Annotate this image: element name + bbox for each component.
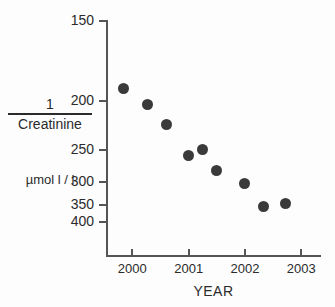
y-axis-tick-label: 150 (50, 13, 94, 27)
y-axis-tick-label: 250 (50, 142, 94, 156)
y-axis-tick (99, 204, 107, 206)
y-axis-tick (99, 100, 107, 102)
x-axis-tick (300, 249, 302, 256)
creatinine-scatter-chart: 150200250300350400 2000200120022003 1 Cr… (0, 0, 335, 307)
x-axis-tick-label: 2001 (166, 261, 212, 276)
data-point (258, 201, 269, 212)
data-point (197, 144, 208, 155)
x-axis-tick (188, 249, 190, 256)
data-point (183, 150, 194, 161)
x-axis-tick-label: 2000 (109, 261, 155, 276)
fraction-rule (8, 113, 92, 115)
y-axis-tick-label: 400 (50, 214, 94, 228)
data-point (161, 119, 172, 130)
y-axis-tick-label: 350 (50, 197, 94, 211)
y-axis-tick (99, 221, 107, 223)
data-point (211, 165, 222, 176)
x-axis-line (106, 255, 321, 257)
y-axis-title-denominator: Creatinine (4, 116, 96, 133)
data-point (142, 99, 153, 110)
y-axis-title-numerator: 1 (4, 96, 96, 112)
y-axis-units-label: µmol l / l (4, 172, 96, 187)
data-point (280, 198, 291, 209)
y-axis-tick (99, 181, 107, 183)
data-point (118, 83, 129, 94)
x-axis-tick-label: 2003 (278, 261, 324, 276)
y-axis-tick (99, 20, 107, 22)
data-point (239, 178, 250, 189)
x-axis-tick (244, 249, 246, 256)
x-axis-title: YEAR (106, 283, 321, 299)
y-axis-tick (99, 149, 107, 151)
x-axis-tick-label: 2002 (222, 261, 268, 276)
x-axis-tick (131, 249, 133, 256)
y-axis-title: 1 Creatinine (4, 96, 96, 133)
